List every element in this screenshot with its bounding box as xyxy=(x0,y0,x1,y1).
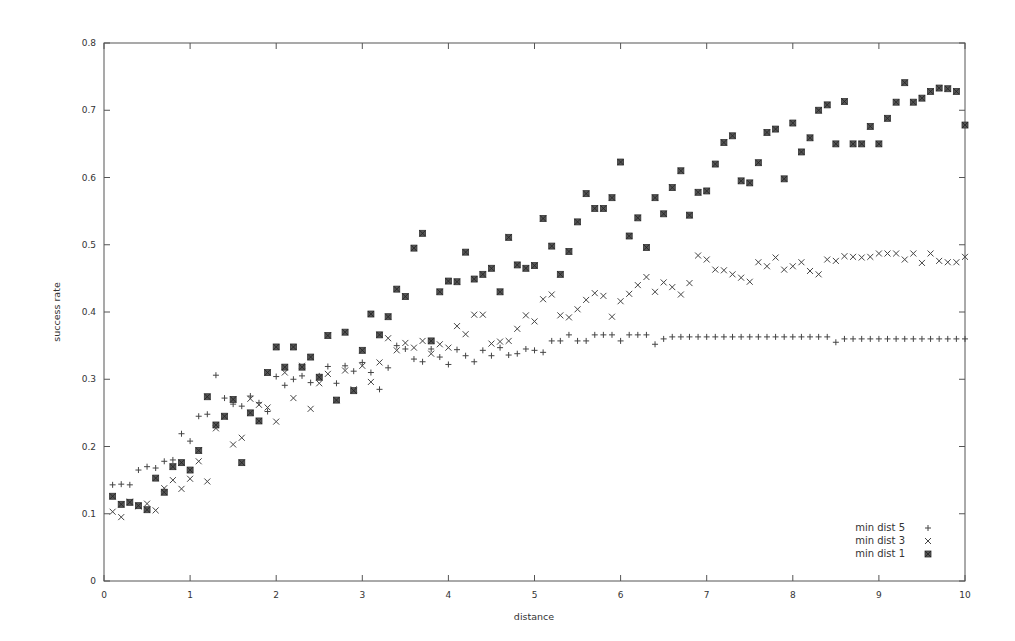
scatter-chart: 00.10.20.30.40.50.60.70.8 012345678910 d… xyxy=(0,0,1015,641)
plus-marker xyxy=(609,332,615,338)
plus-marker xyxy=(661,336,667,342)
plus-marker xyxy=(798,334,804,340)
plus-marker xyxy=(850,336,856,342)
plus-marker xyxy=(368,370,374,376)
plus-marker xyxy=(351,368,357,374)
plus-marker xyxy=(325,363,331,369)
plus-marker xyxy=(471,359,477,365)
plus-marker xyxy=(695,334,701,340)
y-tick-label: 0.3 xyxy=(82,374,96,384)
cross-marker xyxy=(480,312,486,318)
y-tick-label: 0.1 xyxy=(82,509,96,519)
plus-marker xyxy=(239,403,245,409)
cross-marker xyxy=(532,318,538,324)
cross-marker xyxy=(816,271,822,277)
cross-marker xyxy=(635,282,641,288)
plus-marker xyxy=(222,395,228,401)
y-tick-label: 0.2 xyxy=(82,442,96,452)
x-tick-label: 4 xyxy=(446,590,452,600)
cross-marker xyxy=(368,379,374,385)
cross-marker xyxy=(678,292,684,298)
cross-marker xyxy=(204,478,210,484)
cross-marker xyxy=(325,371,331,377)
plus-marker xyxy=(135,467,141,473)
plus-marker xyxy=(144,464,150,470)
plus-marker xyxy=(755,334,761,340)
cross-marker xyxy=(506,338,512,344)
plus-marker xyxy=(282,382,288,388)
plus-marker xyxy=(816,334,822,340)
plus-marker xyxy=(721,334,727,340)
x-tick-label: 3 xyxy=(359,590,365,600)
plus-marker xyxy=(497,345,503,351)
plus-marker xyxy=(919,336,925,342)
cross-marker xyxy=(790,263,796,269)
cross-marker xyxy=(936,258,942,264)
plus-marker xyxy=(196,413,202,419)
plus-marker xyxy=(635,332,641,338)
y-axis-label: success rate xyxy=(51,282,62,342)
cross-marker xyxy=(144,501,150,507)
y-tick-label: 0 xyxy=(90,576,96,586)
legend-markers xyxy=(925,525,931,557)
plot-frame xyxy=(104,43,965,581)
plus-marker xyxy=(962,336,968,342)
plus-marker xyxy=(712,334,718,340)
plus-marker xyxy=(411,356,417,362)
plus-marker xyxy=(928,336,934,342)
cross-marker xyxy=(411,345,417,351)
cross-marker xyxy=(618,298,624,304)
plus-marker xyxy=(299,373,305,379)
cross-marker xyxy=(945,259,951,265)
cross-marker xyxy=(747,279,753,285)
y-axis-ticks: 00.10.20.30.40.50.60.70.8 xyxy=(82,38,965,586)
series-min-dist-1 xyxy=(110,80,968,513)
cross-marker xyxy=(583,297,589,303)
plus-marker xyxy=(876,336,882,342)
plus-marker xyxy=(488,353,494,359)
cross-marker xyxy=(824,257,830,263)
cross-marker xyxy=(153,507,159,513)
plus-marker xyxy=(618,338,624,344)
x-tick-label: 8 xyxy=(790,590,796,600)
plus-marker xyxy=(773,334,779,340)
plus-marker xyxy=(161,458,167,464)
cross-marker xyxy=(867,254,873,260)
plus-marker xyxy=(652,341,658,347)
plus-marker xyxy=(764,334,770,340)
plus-marker xyxy=(790,334,796,340)
cross-marker xyxy=(859,255,865,261)
plus-marker xyxy=(841,336,847,342)
cross-marker xyxy=(712,267,718,273)
plus-marker xyxy=(936,336,942,342)
cross-marker xyxy=(110,509,116,515)
plus-marker xyxy=(747,334,753,340)
cross-marker xyxy=(557,312,563,318)
x-tick-label: 1 xyxy=(187,590,193,600)
cross-marker xyxy=(497,339,503,345)
cross-marker xyxy=(893,250,899,256)
cross-marker xyxy=(170,477,176,483)
plus-marker xyxy=(566,332,572,338)
cross-marker xyxy=(437,341,443,347)
cross-marker xyxy=(919,260,925,266)
plus-marker xyxy=(738,334,744,340)
data-points xyxy=(110,80,968,520)
plus-marker xyxy=(953,336,959,342)
cross-marker xyxy=(902,257,908,263)
cross-marker xyxy=(755,259,761,265)
cross-marker xyxy=(652,289,658,295)
plus-marker xyxy=(377,386,383,392)
cross-marker xyxy=(798,259,804,265)
plus-marker xyxy=(833,339,839,345)
cross-marker xyxy=(953,259,959,265)
x-tick-label: 6 xyxy=(618,590,624,600)
plus-marker xyxy=(204,411,210,417)
cross-marker xyxy=(721,267,727,273)
cross-marker xyxy=(230,441,236,447)
cross-marker xyxy=(290,395,296,401)
plus-marker xyxy=(549,338,555,344)
series-min-dist-3 xyxy=(110,250,968,520)
plus-marker xyxy=(333,380,339,386)
plus-marker xyxy=(824,334,830,340)
